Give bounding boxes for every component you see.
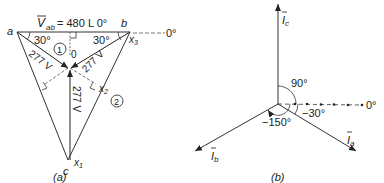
x2-label: x2 (98, 83, 108, 95)
vab-value: = 480 L 0° (57, 17, 107, 29)
vab-symbol: V (37, 16, 46, 30)
angle-neg150-label: −150° (262, 116, 291, 128)
center-0-label: 0 (71, 49, 77, 60)
angle-30-right: 30° (93, 34, 110, 46)
arc-neg30 (295, 104, 298, 114)
x3-label: x3 (128, 34, 138, 46)
diagram-b: Ic Ib Ia 0° 90° −30° −150° (b) (195, 4, 377, 183)
figure: 0° a b c V ab = 480 L 0° 30° 3 (0, 0, 384, 183)
circled-2-label: 2 (114, 97, 119, 107)
phasor-ic-label: Ic (282, 14, 289, 28)
caption-b: (b) (271, 171, 285, 183)
vertex-a-label: a (7, 25, 13, 37)
caption-a: (a) (53, 171, 67, 183)
phase-voltage-bottom: 277 V (71, 86, 82, 112)
vertex-b-label: b (121, 17, 127, 29)
phasor-ib-label: Ib (211, 150, 219, 164)
circled-1-label: 1 (57, 45, 62, 55)
zero-ref-label-a: 0° (166, 27, 177, 39)
phase-voltage-right: 277 V (80, 48, 106, 74)
angle-arc-left (27, 32, 30, 40)
angle-90-label: 90° (291, 77, 308, 89)
right-angle-mark-right (90, 82, 95, 90)
angle-30-left: 30° (34, 34, 51, 46)
right-angle-mark-top (70, 32, 76, 38)
zero-ref-label-b: 0° (366, 99, 377, 111)
x1-label: x1 (73, 157, 83, 169)
vab-subscript: ab (46, 23, 55, 32)
phasor-ia-label: Ia (347, 134, 355, 148)
diagram-a: 0° a b c V ab = 480 L 0° 30° 3 (7, 16, 177, 183)
angle-neg30-label: −30° (302, 107, 325, 119)
phase-voltage-left: 277 V (27, 48, 55, 73)
